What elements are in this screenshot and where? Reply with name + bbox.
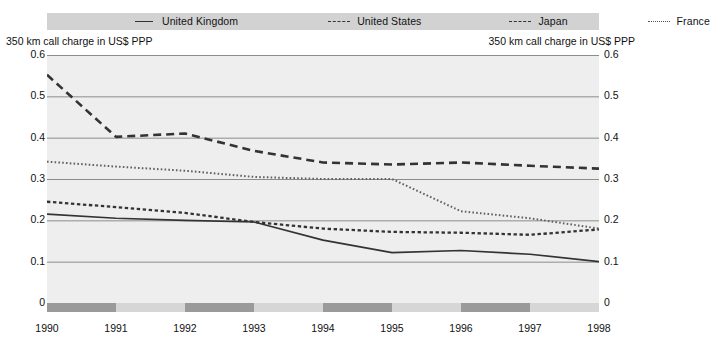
year-strip-segment-1991-1992 <box>116 303 185 312</box>
year-strip-segment-1993-1994 <box>254 303 323 312</box>
dotted-line-swatch-icon <box>646 17 672 26</box>
year-strip-segment-1990-1991 <box>47 303 116 312</box>
x-axis-tick-1994: 1994 <box>303 323 343 334</box>
long-dashed-line-swatch-icon <box>507 17 533 26</box>
series-line-japan <box>47 75 599 169</box>
year-strip-segment-1994-1995 <box>323 303 392 312</box>
y-axis-tick-left-0-1: 0.1 <box>5 256 45 267</box>
dashed-line-swatch-icon <box>326 17 352 26</box>
y-axis-tick-right-0-1: 0.1 <box>604 256 644 267</box>
y-axis-tick-right-0-3: 0.3 <box>604 173 644 184</box>
y-axis-tick-left-0-5: 0.5 <box>5 90 45 101</box>
y-axis-caption-left: 350 km call charge in US$ PPP <box>6 36 153 47</box>
x-axis-tick-1993: 1993 <box>234 323 274 334</box>
x-axis-tick-1998: 1998 <box>579 323 619 334</box>
legend-item-japan: Japan <box>507 13 567 30</box>
y-axis-tick-right-0-4: 0.4 <box>604 132 644 143</box>
x-axis-tick-1996: 1996 <box>441 323 481 334</box>
x-axis-tick-1997: 1997 <box>510 323 550 334</box>
year-strip-segment-1997-1998 <box>530 303 599 312</box>
year-strip <box>47 303 599 312</box>
y-axis-tick-right-0-2: 0.2 <box>604 214 644 225</box>
x-axis-tick-1995: 1995 <box>372 323 412 334</box>
y-axis-tick-left-0-2: 0.2 <box>5 214 45 225</box>
y-axis-tick-left-0-6: 0.6 <box>5 49 45 60</box>
y-axis-tick-right-0-6: 0.6 <box>604 49 644 60</box>
year-strip-segment-1995-1996 <box>392 303 461 312</box>
legend-item-united-states: United States <box>326 13 421 30</box>
series-canvas <box>47 55 599 303</box>
legend-item-france: France <box>646 13 710 30</box>
y-axis-tick-left-0: 0 <box>5 297 45 308</box>
legend-label-japan: Japan <box>538 16 567 27</box>
x-axis-tick-1990: 1990 <box>27 323 67 334</box>
x-axis-tick-1992: 1992 <box>165 323 205 334</box>
y-axis-tick-left-0-4: 0.4 <box>5 132 45 143</box>
y-axis-tick-right-0: 0 <box>604 297 644 308</box>
plot-area <box>47 55 599 303</box>
y-axis-tick-right-0-5: 0.5 <box>604 90 644 101</box>
legend-item-united-kingdom: United Kingdom <box>131 13 238 30</box>
chart-legend: United Kingdom United States Japan Franc… <box>47 13 599 30</box>
year-strip-segment-1992-1993 <box>185 303 254 312</box>
y-axis-tick-left-0-3: 0.3 <box>5 173 45 184</box>
y-axis-caption-right: 350 km call charge in US$ PPP <box>489 36 636 47</box>
solid-line-swatch-icon <box>131 17 157 26</box>
legend-label-united-states: United States <box>357 16 421 27</box>
legend-label-united-kingdom: United Kingdom <box>162 16 238 27</box>
legend-label-france: France <box>677 16 710 27</box>
year-strip-segment-1996-1997 <box>461 303 530 312</box>
x-axis-tick-1991: 1991 <box>96 323 136 334</box>
